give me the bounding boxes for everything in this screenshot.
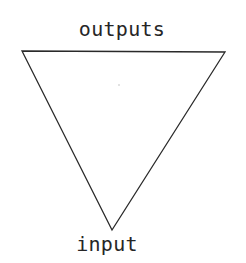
triangle-outline <box>22 51 225 230</box>
outputs-label: outputs <box>0 19 246 39</box>
input-label: input <box>0 234 246 254</box>
figure-canvas: outputs input <box>0 0 246 263</box>
scan-speck <box>118 84 120 86</box>
